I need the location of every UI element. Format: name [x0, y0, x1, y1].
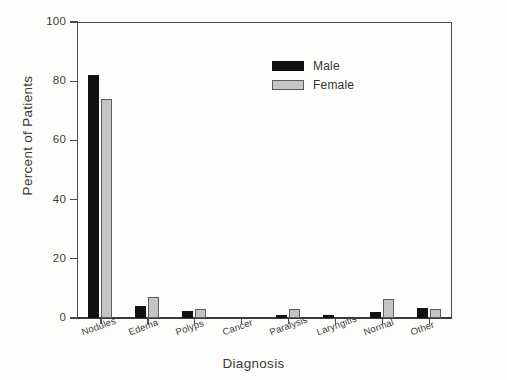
bar-normal-male — [370, 312, 381, 318]
bar-edema-female — [148, 297, 159, 318]
bar-edema-male — [135, 306, 146, 318]
y-axis-tick-label-wrap: 20 — [26, 252, 66, 266]
legend-item-male: Male — [272, 57, 392, 74]
x-axis-title: Diagnosis — [0, 356, 507, 371]
y-axis-tick-label-wrap: 80 — [26, 74, 66, 88]
bar-nodules-female — [101, 99, 112, 318]
chart-figure: Percent of Patients 020406080100 Nodules… — [0, 0, 507, 380]
x-axis-tick-label-polyps: Polyps — [174, 317, 205, 337]
y-axis-tick-label: 20 — [26, 252, 66, 264]
x-axis-tick-label-other: Other — [409, 319, 436, 338]
bar-laryngitis-male — [323, 315, 334, 318]
y-axis-tick — [70, 199, 78, 200]
legend-label: Male — [313, 59, 340, 73]
legend-label: Female — [313, 78, 354, 92]
legend-swatch-icon — [272, 61, 304, 71]
y-axis-tick-label: 60 — [26, 133, 66, 145]
bar-nodules-male — [88, 75, 99, 318]
chart-legend: MaleFemale — [272, 57, 392, 95]
y-axis-tick-label: 0 — [26, 311, 66, 323]
x-axis-tick-label-normal: Normal — [362, 316, 395, 337]
y-axis-tick-label-wrap: 100 — [26, 15, 66, 29]
y-axis-tick — [70, 140, 78, 141]
bar-paralysis-male — [276, 315, 287, 318]
y-axis-tick — [70, 21, 78, 22]
x-axis-tick-label-edema: Edema — [127, 317, 160, 338]
bars-layer — [78, 22, 451, 318]
y-axis-tick-label-wrap: 40 — [26, 193, 66, 207]
y-axis-tick — [70, 258, 78, 259]
legend-item-female: Female — [272, 76, 392, 93]
x-axis-tick-label-cancer: Cancer — [221, 316, 254, 337]
y-axis-tick — [70, 81, 78, 82]
y-axis-tick-label: 80 — [26, 74, 66, 86]
y-axis-tick-label: 40 — [26, 193, 66, 205]
y-axis-tick-label-wrap: 0 — [26, 311, 66, 325]
y-axis-tick-label: 100 — [26, 15, 66, 27]
bar-other-male — [417, 308, 428, 318]
bar-normal-female — [383, 299, 394, 318]
bar-polyps-male — [182, 311, 193, 318]
y-axis-tick-label-wrap: 60 — [26, 133, 66, 147]
y-axis-tick — [70, 317, 78, 318]
bar-other-female — [430, 309, 441, 318]
legend-swatch-icon — [272, 80, 304, 90]
